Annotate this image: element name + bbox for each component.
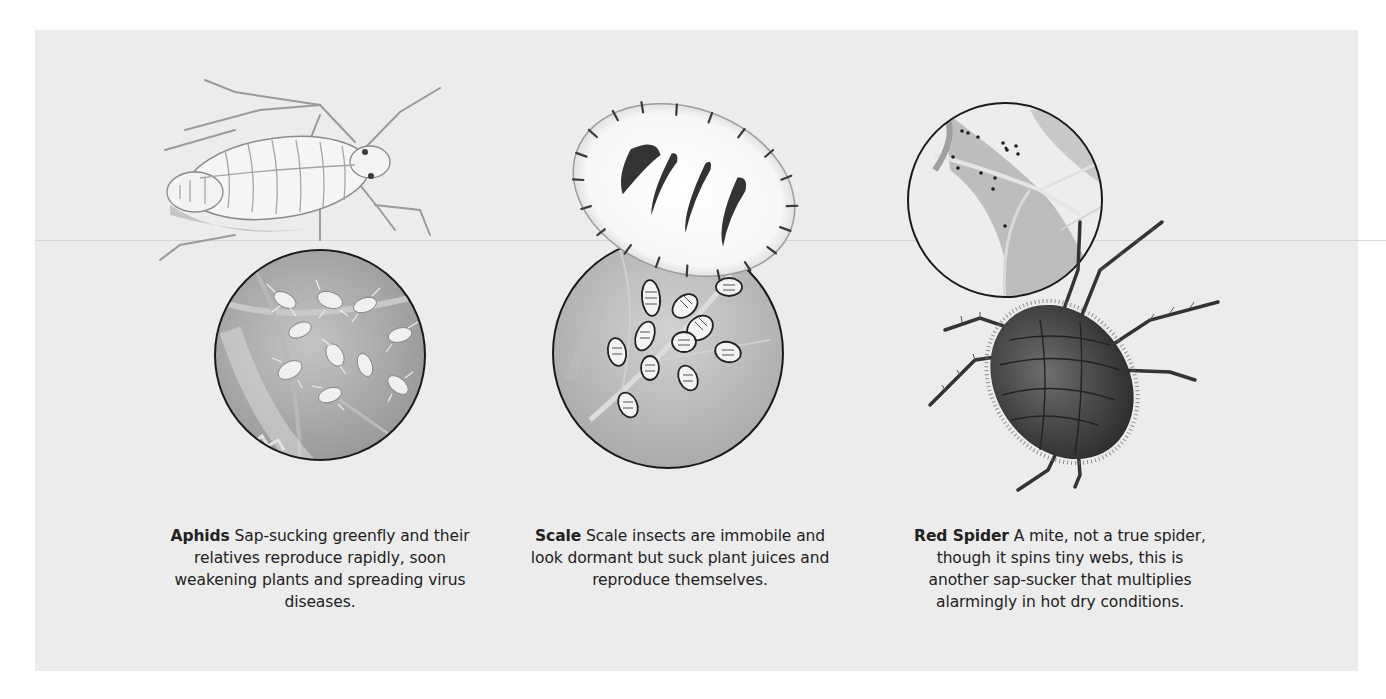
red-spider-figure [905,100,1218,493]
aphid-figure [160,80,440,470]
aphid-adult-drawing [160,80,440,260]
caption-red-spider: Red Spider A mite, not a true spider, th… [905,525,1215,613]
caption-title-red-spider: Red Spider [914,527,1009,545]
scale-figure [549,74,819,475]
caption-title-scale: Scale [535,527,581,545]
caption-aphids: Aphids Sap-sucking greenfly and their re… [170,525,470,613]
aphid-leaf-closeup [200,240,440,470]
caption-scale: Scale Scale insects are immobile and loo… [530,525,830,591]
caption-title-aphids: Aphids [171,527,230,545]
